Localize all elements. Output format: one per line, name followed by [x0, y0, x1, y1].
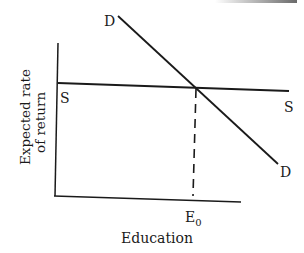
- x-axis-label: Education: [121, 230, 193, 246]
- x-axis: [54, 196, 241, 202]
- y-axis-label: Expected rate of return: [17, 69, 48, 165]
- y-axis-label-line2: of return: [32, 92, 48, 153]
- demand-label-top: D: [104, 13, 115, 29]
- y-axis-label-line1: Expected rate: [17, 69, 33, 165]
- equilibrium-label-main: E: [185, 209, 195, 225]
- y-axis: [55, 43, 58, 196]
- supply-curve: [58, 83, 289, 91]
- supply-label-left: S: [60, 90, 70, 106]
- supply-label-right: S: [284, 99, 294, 115]
- demand-label-bottom: D: [280, 164, 291, 180]
- equilibrium-dashed-line: [193, 89, 196, 196]
- equilibrium-label: E0: [185, 209, 202, 228]
- supply-demand-diagram: D S S D E0 Education Expected rate of re…: [0, 0, 304, 253]
- equilibrium-label-subscript: 0: [195, 217, 201, 228]
